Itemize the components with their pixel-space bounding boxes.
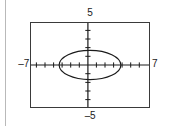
axis-label-bottom: –5: [30, 110, 150, 121]
axis-label-left: –7: [8, 58, 29, 69]
graph-figure: 5 –5 –7 7: [0, 0, 169, 126]
axis-label-top: 5: [30, 7, 150, 18]
x-axis-group: [31, 62, 149, 67]
axis-label-right: 7: [152, 58, 168, 69]
